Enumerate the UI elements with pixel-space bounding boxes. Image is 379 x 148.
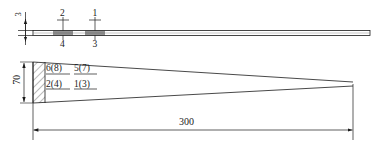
plan-length-label: 300: [179, 117, 194, 127]
plan-view-group: [20, 62, 353, 140]
plan-node-label-6-8: 6(8): [46, 64, 62, 74]
engineering-drawing: 3 2 1 4 3 70 6(8) 5(7) 2(4) 1(3) 300: [0, 0, 379, 148]
elevation-node-segment-a: [53, 30, 73, 36]
elevation-node-label-4: 4: [60, 40, 65, 50]
elevation-node-label-3: 3: [93, 40, 98, 50]
elevation-node-segment-b: [85, 30, 105, 36]
plan-node-label-1-3: 1(3): [74, 80, 90, 90]
plan-node-label-5-7: 5(7): [74, 64, 90, 74]
elevation-thickness-label: 3: [14, 9, 23, 19]
elevation-node-label-2: 2: [60, 9, 65, 19]
plan-hatched-end-block: [33, 62, 45, 103]
plan-node-label-2-4: 2(4): [46, 80, 62, 90]
elevation-node-label-1: 1: [93, 9, 98, 19]
plan-width-label: 70: [13, 69, 23, 91]
elevation-view-group: [18, 12, 370, 45]
